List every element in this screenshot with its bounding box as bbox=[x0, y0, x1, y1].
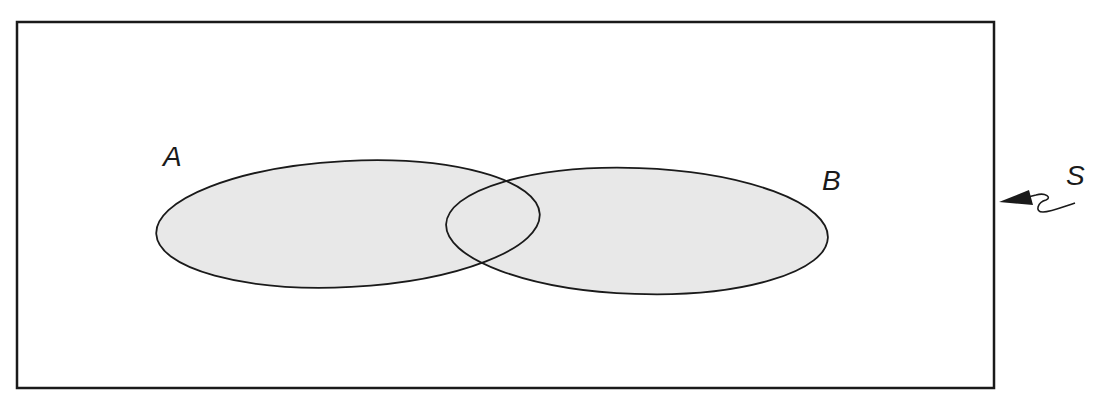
venn-diagram: A B S bbox=[0, 0, 1102, 398]
set-a-label: A bbox=[161, 141, 182, 172]
set-b-label: B bbox=[822, 165, 841, 196]
universe-label: S bbox=[1066, 160, 1085, 191]
pointer-arrow-icon bbox=[999, 190, 1075, 212]
